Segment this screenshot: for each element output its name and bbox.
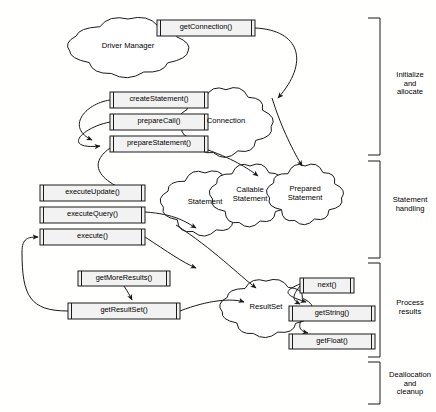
bracket-initialize-and-allocate (368, 18, 380, 155)
diagram-canvas: Driver ManagerConnectionStatementCallabl… (0, 0, 436, 412)
method-box-get-float[interactable] (289, 334, 375, 349)
method-box-execute-query[interactable] (40, 207, 145, 223)
arrow-5 (272, 98, 302, 166)
method-box-prepare-call[interactable] (110, 114, 208, 130)
method-box-get-result-set[interactable] (68, 303, 180, 319)
method-box-create-statement[interactable] (110, 92, 208, 108)
method-box-next[interactable] (300, 278, 354, 293)
diagram-svg (0, 0, 436, 412)
method-box-get-connection[interactable] (157, 20, 255, 36)
bracket-statement-handling (368, 161, 380, 258)
arrow-9 (124, 286, 132, 300)
method-box-execute[interactable] (40, 229, 145, 245)
arrow-14 (22, 237, 68, 311)
method-box-get-more-results[interactable] (78, 271, 170, 286)
method-box-prepare-statement[interactable] (110, 136, 208, 152)
cloud-prepared-statement (266, 164, 343, 225)
bracket-deallocation-and-cleanup (368, 362, 380, 404)
arrow-0 (255, 28, 297, 98)
method-box-execute-update[interactable] (40, 185, 145, 201)
arrow-1 (79, 100, 110, 140)
method-box-get-string[interactable] (289, 306, 375, 321)
arrow-8 (145, 237, 196, 268)
cloud-outline (266, 164, 343, 225)
arrow-7 (176, 225, 256, 288)
arrow-2 (78, 122, 110, 146)
